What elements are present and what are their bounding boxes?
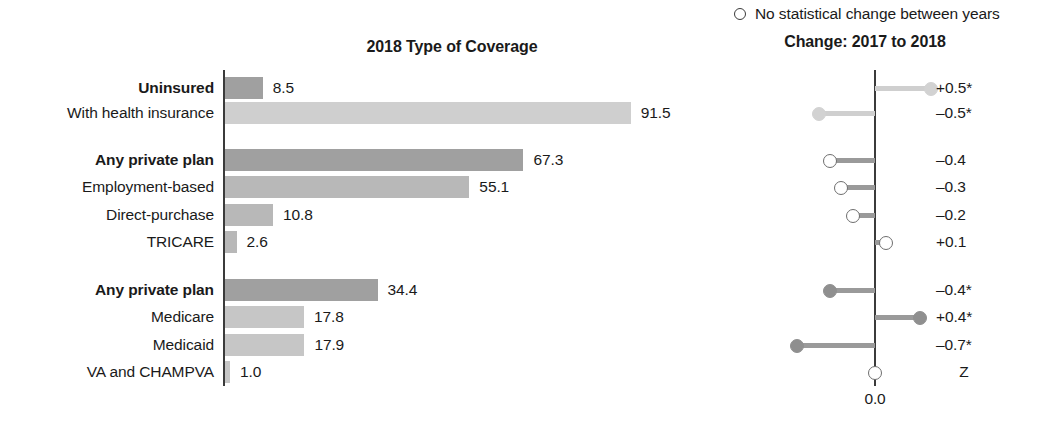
change-panel-title: Change: 2017 to 2018 [700, 33, 1030, 51]
bar-chart-title: 2018 Type of Coverage [224, 38, 680, 56]
change-row: Z [700, 360, 1064, 384]
bar-row: Medicare17.8 [0, 305, 700, 329]
bar-row: With health insurance91.5 [0, 101, 700, 125]
change-dot [823, 154, 837, 168]
change-dot [879, 236, 893, 250]
bar-row-label: VA and CHAMPVA [0, 360, 214, 384]
bar-rect [225, 149, 523, 171]
bar-row: Any private plan67.3 [0, 148, 700, 172]
change-row: –0.4 [700, 148, 1064, 172]
change-value-label: +0.4* [936, 305, 1036, 329]
change-dot [834, 181, 848, 195]
bar-rect [225, 334, 304, 356]
bar-row: Uninsured8.5 [0, 76, 700, 100]
bar-row: Medicaid17.9 [0, 333, 700, 357]
legend: No statistical change between years [734, 3, 1000, 25]
bar-rect [225, 77, 263, 99]
change-value-label: –0.2 [936, 203, 1036, 227]
bar-row-label: TRICARE [0, 230, 214, 254]
bar-row-label: Any private plan [0, 278, 214, 302]
bar-row: TRICARE2.6 [0, 230, 700, 254]
change-row: –0.5* [700, 101, 1064, 125]
zero-axis-label: 0.0 [839, 390, 911, 408]
bar-value-label: 10.8 [283, 203, 313, 227]
bar-rect [225, 102, 631, 124]
change-value-label: –0.3 [936, 175, 1036, 199]
bar-value-label: 17.9 [314, 333, 344, 357]
bar-value-label: 67.3 [533, 148, 563, 172]
change-dot [868, 366, 882, 380]
change-value-label: –0.7* [936, 333, 1036, 357]
change-dot [823, 284, 837, 298]
bar-row-label: Uninsured [0, 76, 214, 100]
bar-value-label: 8.5 [273, 76, 294, 100]
bar-row-label: Any private plan [0, 148, 214, 172]
bar-value-label: 55.1 [479, 175, 509, 199]
change-dot-plot-panel: No statistical change between years Chan… [700, 0, 1064, 426]
bar-rect [225, 306, 304, 328]
change-value-label: –0.4* [936, 278, 1036, 302]
change-stem [819, 111, 875, 116]
change-row: +0.5* [700, 76, 1064, 100]
bar-row-label: Direct-purchase [0, 203, 214, 227]
bar-rect [225, 204, 273, 226]
change-row: –0.3 [700, 175, 1064, 199]
bar-value-label: 17.8 [314, 305, 344, 329]
change-value-label: –0.5* [936, 101, 1036, 125]
legend-label: No statistical change between years [755, 5, 1000, 23]
bar-row: Any private plan34.4 [0, 278, 700, 302]
change-dot [790, 339, 804, 353]
change-value-label: +0.5* [936, 76, 1036, 100]
coverage-bar-chart-panel: 2018 Type of Coverage Uninsured8.5With h… [0, 0, 700, 426]
change-row: –0.2 [700, 203, 1064, 227]
bar-row-label: Medicare [0, 305, 214, 329]
change-value-label: Z [936, 360, 992, 384]
change-dot [812, 107, 826, 121]
bar-rect [225, 279, 378, 301]
change-dot [913, 311, 927, 325]
change-row: +0.4* [700, 305, 1064, 329]
bar-value-label: 2.6 [247, 230, 268, 254]
change-row: –0.7* [700, 333, 1064, 357]
change-stem [875, 86, 931, 91]
bar-value-label: 34.4 [388, 278, 418, 302]
change-dot [846, 209, 860, 223]
bar-rect [225, 176, 469, 198]
bar-row: VA and CHAMPVA1.0 [0, 360, 700, 384]
bar-rect [225, 361, 230, 383]
bar-value-label: 91.5 [641, 101, 671, 125]
change-row: +0.1 [700, 230, 1064, 254]
bar-row: Employment-based55.1 [0, 175, 700, 199]
change-value-label: –0.4 [936, 148, 1036, 172]
hollow-circle-icon [734, 8, 746, 20]
change-row: –0.4* [700, 278, 1064, 302]
bar-row-label: Medicaid [0, 333, 214, 357]
bar-row: Direct-purchase10.8 [0, 203, 700, 227]
bar-rect [225, 231, 237, 253]
change-stem [797, 343, 875, 348]
bar-value-label: 1.0 [240, 360, 261, 384]
change-value-label: +0.1 [936, 230, 1036, 254]
bar-row-label: Employment-based [0, 175, 214, 199]
bar-row-label: With health insurance [0, 101, 214, 125]
